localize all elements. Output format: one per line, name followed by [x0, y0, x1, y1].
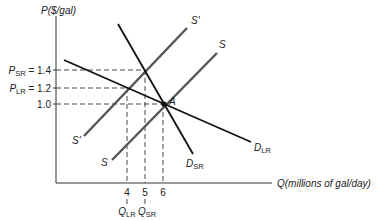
y-tick-label-1-0: 1.0 [37, 99, 51, 110]
d-sr-label: DSR [186, 158, 204, 171]
s-prime-bottom-label: S' [72, 135, 82, 146]
x-tick-label-5: 5 [142, 187, 148, 198]
equilibrium-point-a [161, 101, 166, 106]
demand-curve-long-run [64, 60, 251, 142]
x-axis-label: Q(millions of gal/day) [277, 178, 371, 189]
y-tick-label-plr: PLR = 1.2 [9, 83, 51, 96]
s-prime-top-label: S' [191, 15, 201, 26]
s-top-label: S [219, 39, 226, 50]
x-tick-label-4: 4 [124, 187, 130, 198]
supply-curve-s-prime [84, 28, 187, 136]
y-tick-label-psr: PSR = 1.4 [9, 65, 52, 78]
d-lr-label: DLR [254, 142, 271, 155]
y-axis-label: P($/gal) [41, 5, 76, 16]
supply-demand-chart: P($/gal) Q(millions of gal/day) PSR = 1.… [0, 0, 380, 221]
q-sr-label: QSR [138, 206, 157, 219]
x-tick-label-6: 6 [160, 187, 166, 198]
s-bottom-label: S [101, 157, 108, 168]
q-lr-label: QLR [118, 206, 136, 219]
point-a-label: A [168, 96, 176, 107]
